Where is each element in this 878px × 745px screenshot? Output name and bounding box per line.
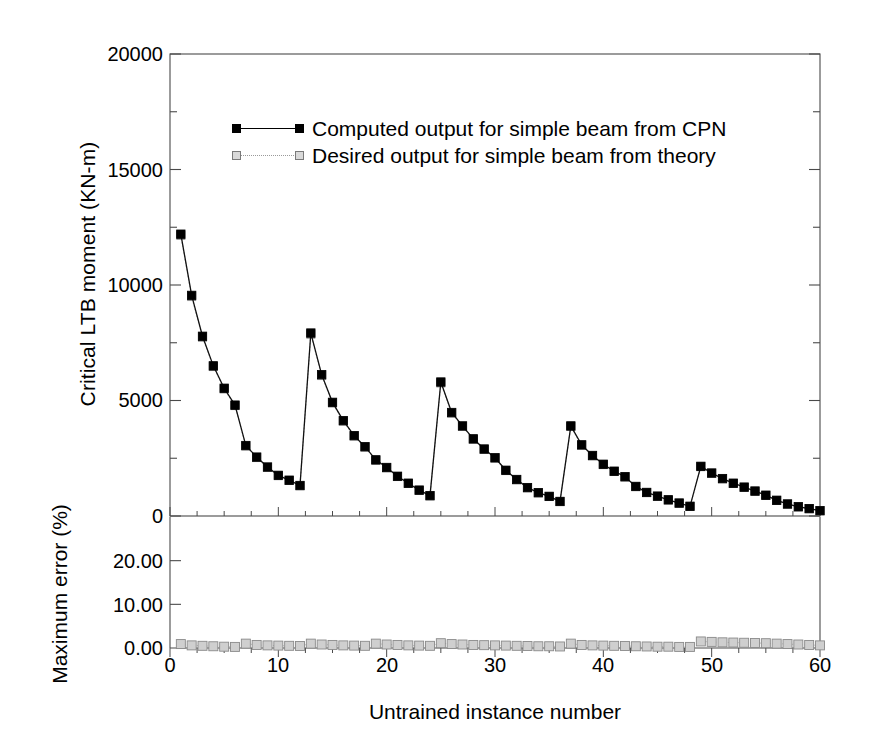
legend-item-desired: Desired output for simple beam from theo… <box>232 142 832 169</box>
data-point-error <box>274 641 283 650</box>
series-line-desired <box>181 235 820 510</box>
data-point-computed <box>480 445 488 453</box>
data-point-error <box>816 641 825 650</box>
x-axis-title: Untrained instance number <box>170 700 820 724</box>
data-point-computed <box>588 451 596 459</box>
data-point-computed <box>805 504 813 512</box>
data-point-error <box>436 639 445 648</box>
data-point-computed <box>458 422 466 430</box>
data-point-computed <box>632 482 640 490</box>
x-tick-label: 0 <box>140 654 200 677</box>
data-point-error <box>469 640 478 649</box>
y-tick-label: 10.00 <box>63 595 163 615</box>
data-point-computed <box>307 329 315 337</box>
data-point-computed <box>328 398 336 406</box>
data-point-error <box>317 640 326 649</box>
data-point-error <box>545 642 554 651</box>
data-point-computed <box>783 500 791 508</box>
data-point-computed <box>718 474 726 482</box>
x-tick-label: 50 <box>682 654 742 677</box>
data-point-error <box>296 642 305 651</box>
data-point-computed <box>361 443 369 451</box>
data-point-computed <box>296 481 304 489</box>
data-point-error <box>577 640 586 649</box>
data-point-error <box>501 641 510 650</box>
data-point-computed <box>252 453 260 461</box>
data-point-error <box>187 641 196 650</box>
data-point-error <box>729 638 738 647</box>
data-point-error <box>740 638 749 647</box>
data-point-computed <box>621 473 629 481</box>
data-point-error <box>382 640 391 649</box>
data-point-computed <box>187 291 195 299</box>
data-point-computed <box>675 499 683 507</box>
chart-figure: Critical LTB moment (KN-m) Maximum error… <box>0 0 878 745</box>
legend-marker-square <box>295 151 304 160</box>
data-point-error <box>534 642 543 651</box>
data-point-computed <box>534 488 542 496</box>
lower-panel-data <box>176 637 824 651</box>
x-tick-label: 10 <box>248 654 308 677</box>
data-point-computed <box>350 431 358 439</box>
legend-marker-square <box>232 151 241 160</box>
data-point-error <box>176 640 185 649</box>
y-tick-labels-lower: 20.00 10.00 0.00 <box>58 0 163 745</box>
data-point-error <box>415 641 424 650</box>
data-point-computed <box>198 332 206 340</box>
data-point-error <box>621 642 630 651</box>
data-point-error <box>718 638 727 647</box>
data-point-error <box>220 642 229 651</box>
data-point-error <box>653 642 662 651</box>
data-point-error <box>783 640 792 649</box>
data-point-error <box>523 642 532 651</box>
data-point-computed <box>740 483 748 491</box>
data-point-error <box>556 642 565 651</box>
data-point-error <box>794 640 803 649</box>
data-point-error <box>751 638 760 647</box>
upper-panel-data <box>177 230 825 515</box>
data-point-error <box>252 640 261 649</box>
data-point-computed <box>382 463 390 471</box>
legend-line <box>234 128 302 129</box>
data-point-computed <box>242 441 250 449</box>
data-point-computed <box>317 370 325 378</box>
legend-label: Desired output for simple beam from theo… <box>312 144 716 168</box>
data-point-error <box>458 640 467 649</box>
data-point-error <box>285 641 294 650</box>
y-tick-label: 20.00 <box>63 551 163 571</box>
data-point-computed <box>437 378 445 386</box>
data-point-error <box>631 642 640 651</box>
data-point-error <box>263 641 272 650</box>
data-point-computed <box>762 491 770 499</box>
data-point-error <box>675 642 684 651</box>
data-point-computed <box>751 487 759 495</box>
x-tick-label: 40 <box>573 654 633 677</box>
data-point-error <box>761 639 770 648</box>
data-point-computed <box>567 422 575 430</box>
data-point-error <box>491 641 500 650</box>
legend-marker-square <box>232 124 241 133</box>
data-point-error <box>566 639 575 648</box>
data-point-computed <box>231 401 239 409</box>
data-point-computed <box>772 496 780 504</box>
legend-label: Computed output for simple beam from CPN <box>312 117 726 141</box>
data-point-error <box>512 641 521 650</box>
data-point-error <box>339 641 348 650</box>
x-tick-label: 30 <box>465 654 525 677</box>
series-line-computed <box>181 234 820 511</box>
data-point-computed <box>653 492 661 500</box>
data-point-computed <box>729 479 737 487</box>
data-point-error <box>599 641 608 650</box>
data-point-computed <box>274 471 282 479</box>
data-point-error <box>426 641 435 650</box>
x-tick-label: 60 <box>790 654 850 677</box>
data-point-computed <box>209 362 217 370</box>
data-point-error <box>231 642 240 651</box>
data-point-computed <box>339 416 347 424</box>
data-point-computed <box>545 492 553 500</box>
data-point-computed <box>816 506 824 514</box>
data-point-computed <box>707 469 715 477</box>
data-point-computed <box>642 488 650 496</box>
data-point-error <box>198 641 207 650</box>
data-point-computed <box>263 463 271 471</box>
